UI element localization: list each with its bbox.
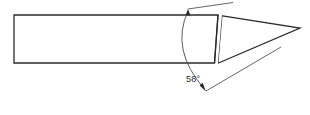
tool-shank: [14, 15, 218, 63]
cutting-point-outline: [219, 16, 301, 63]
lower-leader-line: [206, 47, 281, 91]
angle-dimension-label: 58°: [186, 74, 200, 84]
upper-leader-line: [188, 3, 233, 10]
cutting-point: [219, 16, 301, 63]
technical-drawing-canvas: 58°: [0, 0, 310, 115]
tool-shank-outline: [14, 15, 218, 63]
technical-drawing: 58°: [0, 0, 310, 115]
upper-arrowhead-icon: [186, 9, 191, 16]
